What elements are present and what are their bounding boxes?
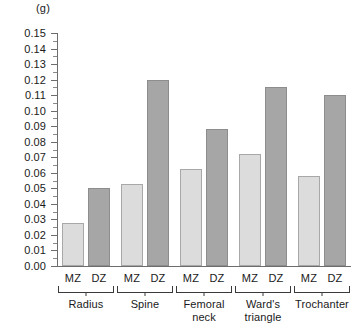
bar-radius-dz — [88, 188, 110, 266]
y-minor-tick-mark — [53, 243, 57, 244]
y-tick-label: 0.07 — [6, 152, 46, 163]
y-tick-label: 0.13 — [6, 59, 46, 70]
y-axis-line — [57, 33, 58, 267]
y-minor-tick-mark — [53, 181, 57, 182]
y-tick-label: 0.10 — [6, 106, 46, 117]
y-minor-tick-mark — [53, 165, 57, 166]
x-sub-label-ward-s-triangle-dz: DZ — [259, 272, 293, 284]
bar-radius-mz — [62, 223, 84, 266]
y-tick-label: 0.00 — [6, 261, 46, 272]
y-tick-mark — [51, 250, 57, 251]
x-group-brace — [294, 286, 350, 293]
y-tick-label: 0.14 — [6, 44, 46, 55]
x-group-brace — [176, 286, 232, 293]
y-tick-label: 0.04 — [6, 199, 46, 210]
y-tick-label: 0.03 — [6, 214, 46, 225]
y-tick-label: 0.12 — [6, 75, 46, 86]
y-minor-tick-mark — [53, 72, 57, 73]
y-minor-tick-mark — [53, 41, 57, 42]
y-tick-mark — [51, 266, 57, 267]
y-minor-tick-mark — [53, 258, 57, 259]
y-tick-mark — [51, 142, 57, 143]
bar-spine-dz — [147, 80, 169, 266]
bar-ward-s-triangle-dz — [265, 87, 287, 266]
y-tick-label: 0.02 — [6, 230, 46, 241]
bar-trochanter-dz — [324, 95, 346, 266]
y-tick-mark — [51, 219, 57, 220]
y-tick-mark — [51, 111, 57, 112]
bar-trochanter-mz — [298, 176, 320, 266]
y-tick-label: 0.08 — [6, 137, 46, 148]
y-tick-label: 0.09 — [6, 121, 46, 132]
y-minor-tick-mark — [53, 103, 57, 104]
y-tick-mark — [51, 49, 57, 50]
y-minor-tick-mark — [53, 212, 57, 213]
y-tick-mark — [51, 157, 57, 158]
y-tick-label: 0.06 — [6, 168, 46, 179]
y-minor-tick-mark — [53, 56, 57, 57]
x-group-brace — [117, 286, 173, 293]
x-group-brace — [58, 286, 114, 293]
y-tick-label: 0.05 — [6, 183, 46, 194]
y-minor-tick-mark — [53, 227, 57, 228]
x-sub-label-radius-dz: DZ — [82, 272, 116, 284]
y-tick-mark — [51, 204, 57, 205]
y-minor-tick-mark — [53, 87, 57, 88]
y-tick-mark — [51, 235, 57, 236]
x-group-label-trochanter: Trochanter — [277, 298, 356, 311]
x-sub-label-trochanter-dz: DZ — [318, 272, 352, 284]
y-tick-mark — [51, 188, 57, 189]
bar-spine-mz — [121, 184, 143, 266]
y-minor-tick-mark — [53, 150, 57, 151]
x-axis-line — [57, 266, 351, 267]
y-tick-mark — [51, 126, 57, 127]
y-tick-mark — [51, 64, 57, 65]
bar-chart: (g) 0.150.140.130.120.110.100.090.080.07… — [0, 0, 356, 332]
y-tick-mark — [51, 33, 57, 34]
y-minor-tick-mark — [53, 134, 57, 135]
bar-femoral-neck-mz — [180, 169, 202, 266]
x-sub-label-femoral-neck-dz: DZ — [200, 272, 234, 284]
x-group-brace — [235, 286, 291, 293]
x-sub-label-spine-dz: DZ — [141, 272, 175, 284]
y-tick-mark — [51, 95, 57, 96]
y-tick-label: 0.11 — [6, 90, 46, 101]
y-minor-tick-mark — [53, 196, 57, 197]
bar-femoral-neck-dz — [206, 129, 228, 266]
y-minor-tick-mark — [53, 118, 57, 119]
y-tick-mark — [51, 173, 57, 174]
y-tick-label: 0.01 — [6, 245, 46, 256]
bar-ward-s-triangle-mz — [239, 154, 261, 266]
y-tick-mark — [51, 80, 57, 81]
y-tick-label: 0.15 — [6, 28, 46, 39]
y-axis-unit-label: (g) — [36, 2, 50, 14]
